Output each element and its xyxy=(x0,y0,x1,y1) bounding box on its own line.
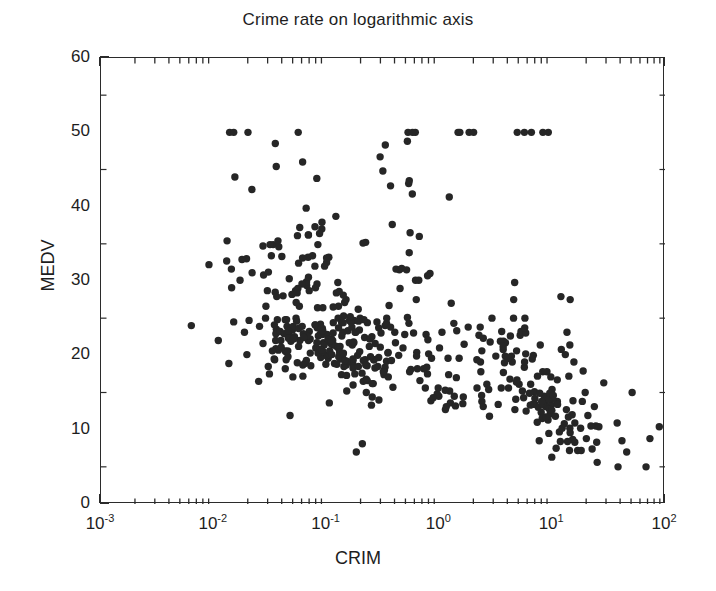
data-point xyxy=(223,237,230,244)
data-point xyxy=(384,349,391,356)
data-point xyxy=(460,340,467,347)
data-point xyxy=(266,370,273,377)
data-point xyxy=(534,419,541,426)
y-tick-label: 20 xyxy=(44,345,90,362)
data-point xyxy=(188,322,195,329)
data-point xyxy=(569,397,576,404)
data-point xyxy=(438,329,445,336)
data-point xyxy=(282,365,289,372)
data-point xyxy=(521,129,528,136)
data-point xyxy=(409,190,416,197)
data-point xyxy=(628,389,635,396)
data-point xyxy=(428,355,435,362)
data-point xyxy=(453,374,460,381)
data-point xyxy=(554,376,561,383)
data-point xyxy=(520,394,527,401)
plot-area xyxy=(100,57,664,503)
data-point xyxy=(368,401,375,408)
data-point xyxy=(435,384,442,391)
data-point xyxy=(359,239,366,246)
data-point xyxy=(618,437,625,444)
data-point xyxy=(392,339,399,346)
data-point xyxy=(306,287,313,294)
data-point xyxy=(205,261,212,268)
data-point xyxy=(521,314,528,321)
data-point xyxy=(339,319,346,326)
data-point xyxy=(495,401,502,408)
data-point xyxy=(623,448,630,455)
data-point xyxy=(565,372,572,379)
data-point xyxy=(375,396,382,403)
data-point xyxy=(375,354,382,361)
data-point xyxy=(356,348,363,355)
data-point xyxy=(529,355,536,362)
data-point xyxy=(513,376,520,383)
data-point xyxy=(409,129,416,136)
data-point xyxy=(377,329,384,336)
data-point xyxy=(288,291,295,298)
data-point xyxy=(369,393,376,400)
data-point xyxy=(453,327,460,334)
data-point xyxy=(511,279,518,286)
scatter-plot-figure: Crime rate on logarithmic axis MEDV CRIM… xyxy=(0,0,716,591)
data-point xyxy=(510,314,517,321)
data-point xyxy=(333,361,340,368)
data-point xyxy=(443,403,450,410)
data-point xyxy=(295,129,302,136)
data-point xyxy=(442,387,449,394)
data-point xyxy=(305,274,312,281)
data-point xyxy=(562,351,569,358)
data-point xyxy=(290,335,297,342)
data-point xyxy=(355,363,362,370)
data-point xyxy=(404,138,411,145)
data-point xyxy=(274,237,281,244)
data-point xyxy=(363,389,370,396)
data-point xyxy=(478,392,485,399)
data-point xyxy=(286,275,293,282)
data-point xyxy=(588,445,595,452)
data-point xyxy=(480,335,487,342)
data-point xyxy=(270,355,277,362)
data-point xyxy=(319,304,326,311)
data-point xyxy=(314,241,321,248)
data-point xyxy=(326,399,333,406)
data-point xyxy=(545,430,552,437)
data-point xyxy=(299,372,306,379)
data-point xyxy=(536,390,543,397)
data-point xyxy=(373,318,380,325)
data-point xyxy=(477,323,484,330)
data-point xyxy=(538,398,545,405)
data-point xyxy=(512,395,519,402)
data-point xyxy=(338,332,345,339)
data-point xyxy=(279,292,286,299)
data-point xyxy=(511,406,518,413)
data-point xyxy=(327,337,334,344)
data-point xyxy=(552,445,559,452)
data-point xyxy=(269,347,276,354)
data-point xyxy=(477,368,484,375)
data-point xyxy=(444,355,451,362)
data-point xyxy=(564,438,571,445)
data-point xyxy=(343,372,350,379)
data-point xyxy=(391,329,398,336)
data-point xyxy=(584,412,591,419)
data-point xyxy=(566,296,573,303)
data-point xyxy=(366,335,373,342)
data-point xyxy=(436,344,443,351)
data-point xyxy=(450,320,457,327)
data-point xyxy=(313,339,320,346)
data-point xyxy=(424,336,431,343)
data-point xyxy=(510,296,517,303)
data-point xyxy=(336,288,343,295)
data-point xyxy=(358,369,365,376)
data-point xyxy=(460,393,467,400)
data-point xyxy=(329,303,336,310)
data-point xyxy=(256,323,263,330)
data-point xyxy=(527,381,534,388)
data-point xyxy=(299,254,306,261)
data-point xyxy=(483,381,490,388)
data-point xyxy=(570,358,577,365)
data-point xyxy=(492,352,499,359)
data-point xyxy=(656,423,663,430)
data-point xyxy=(355,306,362,313)
